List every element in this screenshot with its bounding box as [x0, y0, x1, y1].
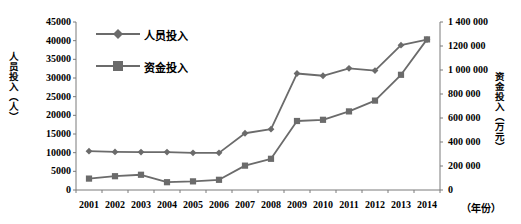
data-point-marker	[112, 149, 119, 156]
diamond-marker-icon	[111, 28, 125, 40]
data-point-marker	[294, 70, 301, 77]
data-point-marker	[190, 178, 196, 184]
legend-label-personnel: 人员投入	[144, 27, 188, 43]
plot-area	[0, 0, 521, 224]
data-point-marker	[268, 126, 275, 133]
data-point-marker	[424, 36, 430, 42]
legend-label-funding: 资金投入	[144, 59, 188, 75]
data-point-marker	[320, 117, 326, 123]
data-point-marker	[216, 177, 222, 183]
data-point-marker	[398, 72, 404, 78]
chart-container: 人员投入（人） 资金投入（万元） 05000100001500020000250…	[0, 0, 521, 224]
data-point-marker	[138, 172, 144, 178]
data-point-marker	[346, 108, 352, 114]
data-point-marker	[242, 163, 248, 169]
data-point-marker	[138, 149, 145, 156]
data-point-marker	[372, 98, 378, 104]
data-point-marker	[294, 118, 300, 124]
data-point-marker	[112, 173, 118, 179]
square-marker-icon	[111, 60, 125, 72]
data-point-marker	[86, 176, 92, 182]
data-point-marker	[190, 149, 197, 156]
data-point-marker	[346, 65, 353, 72]
data-point-marker	[268, 156, 274, 162]
data-point-marker	[164, 179, 170, 185]
data-point-marker	[320, 72, 327, 79]
data-point-marker	[164, 149, 171, 156]
data-point-marker	[86, 148, 93, 155]
